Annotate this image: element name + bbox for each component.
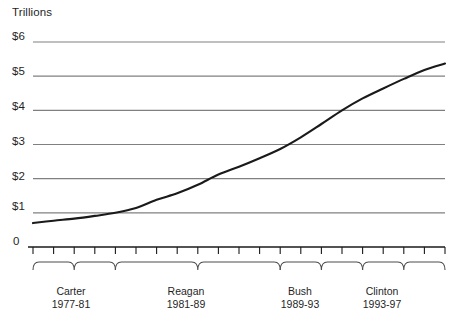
era-braces-group	[33, 262, 445, 270]
chart-container: Trillions $6 $5 $4 $3 $2 $1 0 Carter 197…	[0, 0, 452, 319]
data-line-group	[33, 64, 445, 224]
chart-plot-area	[0, 0, 452, 319]
gridlines-group	[33, 42, 445, 213]
era-brace-carter	[33, 262, 115, 270]
era-brace-clinton	[363, 262, 445, 270]
era-brace-reagan	[115, 262, 280, 270]
data-line-gross-federal-debt	[33, 64, 445, 224]
x-axis-ticks-group	[33, 247, 445, 254]
era-brace-bush	[280, 262, 362, 270]
